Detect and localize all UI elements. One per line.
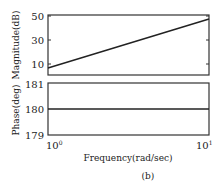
magnitude-plot: 50 30 10 Magnitude(dB)	[11, 11, 209, 80]
mag-tick-30: 30	[31, 35, 44, 46]
x-tick-10e1: 101	[196, 139, 213, 151]
mag-tick-10: 10	[31, 59, 44, 70]
x-tick-10e0: 100	[46, 139, 63, 151]
figure-caption: (b)	[142, 171, 155, 181]
phase-tick-180: 180	[25, 104, 44, 115]
x-axis-label: Frequency(rad/sec)	[83, 153, 172, 163]
magnitude-frame	[48, 15, 209, 75]
magnitude-line	[48, 19, 209, 68]
magnitude-axis-label: Magnitude(dB)	[11, 11, 21, 80]
phase-tick-181: 181	[25, 79, 44, 90]
phase-tick-179: 179	[25, 130, 44, 141]
bode-plot: 50 30 10 Magnitude(dB) 181 180 179 Phase…	[0, 0, 220, 188]
mag-tick-50: 50	[31, 11, 44, 22]
phase-axis-label: Phase(deg)	[11, 84, 21, 135]
phase-plot: 181 180 179 Phase(deg)	[11, 79, 209, 141]
